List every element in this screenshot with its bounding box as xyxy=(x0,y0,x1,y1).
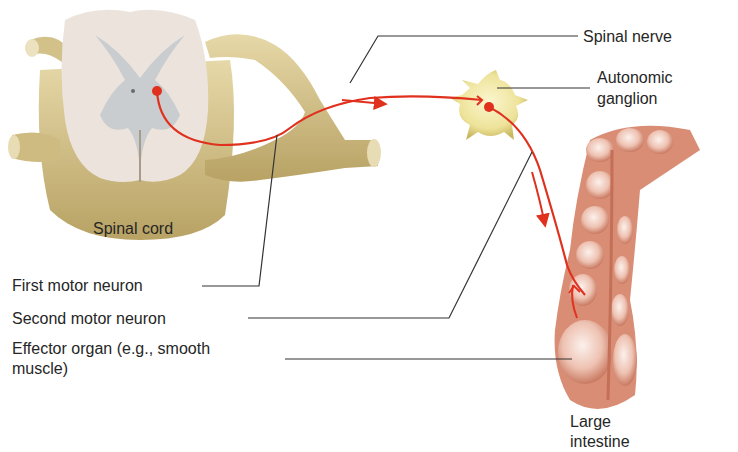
label-large-intestine-1: Large xyxy=(570,412,611,431)
label-spinal-cord: Spinal cord xyxy=(93,219,173,238)
label-second-motor-neuron: Second motor neuron xyxy=(12,309,166,328)
leader-lines xyxy=(202,36,590,359)
label-first-motor-neuron: First motor neuron xyxy=(12,276,143,295)
label-autonomic-ganglion-2: ganglion xyxy=(597,89,658,108)
large-intestine-illustration xyxy=(555,126,700,409)
label-autonomic-ganglion-1: Autonomic xyxy=(597,68,673,87)
label-effector-organ-1: Effector organ (e.g., smooth xyxy=(12,339,210,358)
spinal-cord-illustration xyxy=(8,10,381,240)
label-large-intestine-2: intestine xyxy=(570,432,630,451)
label-spinal-nerve: Spinal nerve xyxy=(583,27,672,46)
label-effector-organ-2: muscle) xyxy=(12,359,68,378)
